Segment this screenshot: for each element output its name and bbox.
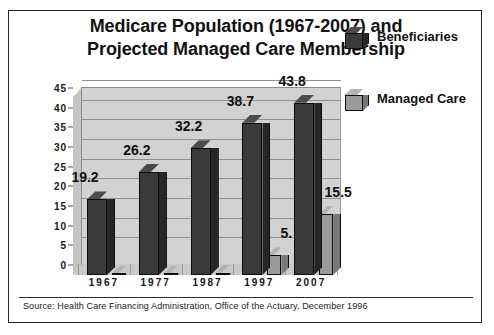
bar-front-face	[139, 172, 159, 275]
legend-swatch-front	[345, 33, 363, 49]
bar-managed-care-1967	[112, 274, 126, 275]
dark-cube-icon	[345, 33, 363, 49]
bar-front-face	[112, 273, 126, 275]
y-axis-tick-label: 20	[21, 181, 67, 192]
x-axis-tick-mark	[130, 264, 131, 275]
chart-slide-frame: Medicare Population (1967-2007) and Proj…	[8, 10, 482, 323]
legend-entry-beneficiaries: Beneficiaries	[345, 29, 465, 69]
bar-value-label-managed-care-2007: 15.5	[325, 184, 352, 200]
y-axis-tick-label: 30	[21, 142, 67, 153]
bar-beneficiaries-2007	[294, 103, 314, 275]
bar-managed-care-1977	[164, 273, 178, 275]
y-axis-tick-label: 15	[21, 201, 67, 212]
legend-label: Beneficiaries	[377, 29, 467, 44]
bar-value-label-beneficiaries-1997: 38.7	[227, 93, 254, 109]
x-axis-tick-mark	[233, 264, 234, 275]
light-cube-icon	[345, 95, 363, 111]
bar-side-face	[211, 148, 219, 275]
bar-value-label-beneficiaries-1967: 19.2	[71, 169, 98, 185]
x-axis-label-2007: 2007	[296, 277, 326, 288]
bar-front-face	[87, 199, 107, 275]
x-axis-label-1987: 1987	[192, 277, 222, 288]
source-note: Source: Health Care Financing Administra…	[23, 301, 368, 311]
bar-side-face	[314, 103, 322, 275]
bar-front-face	[164, 273, 178, 275]
x-axis-label-1967: 1967	[89, 277, 119, 288]
bar-value-label-beneficiaries-2007: 43.8	[279, 73, 306, 89]
bar-side-face	[333, 214, 341, 275]
x-axis: 19671977198719972007	[73, 277, 341, 293]
bar-front-face	[294, 103, 314, 275]
legend-swatch-side	[363, 33, 369, 49]
bar-front-face	[191, 148, 211, 275]
legend-swatch-side	[363, 95, 369, 111]
bar-beneficiaries-1997	[242, 123, 262, 275]
bar-value-label-beneficiaries-1987: 32.2	[175, 118, 202, 134]
y-axis-tick-label: 40	[21, 102, 67, 113]
x-axis-label-1977: 1977	[141, 277, 171, 288]
legend-label: Managed Care	[377, 91, 467, 106]
x-axis-tick-mark	[182, 264, 183, 275]
x-axis-tick-mark	[78, 264, 79, 275]
bar-side-face	[107, 199, 115, 275]
x-axis-label-1997: 1997	[244, 277, 274, 288]
y-axis-tick-label: 35	[21, 122, 67, 133]
y-axis-tick-label: 10	[21, 220, 67, 231]
bar-side-face	[262, 123, 270, 275]
legend-entry-managed-care: Managed Care	[345, 91, 465, 131]
bar-value-label-beneficiaries-1977: 26.2	[123, 142, 150, 158]
bar-beneficiaries-1977	[139, 172, 159, 275]
bar-beneficiaries-1967	[87, 199, 107, 275]
plot-wall: 43.815.538.75.32.226.219.2	[73, 87, 341, 275]
footer-divider	[19, 297, 473, 298]
bar-value-label-managed-care-1997: 5.	[281, 225, 293, 241]
y-axis-tick-label: 5	[21, 240, 67, 251]
legend-swatch-front	[345, 95, 363, 111]
y-axis-tick-label: 45	[21, 83, 67, 94]
y-axis-tick-label: 25	[21, 161, 67, 172]
bar-beneficiaries-1987	[191, 148, 211, 275]
bar-front-face	[216, 273, 230, 275]
y-axis: 051015202530354045	[21, 87, 73, 275]
y-axis-tick-label: 0	[21, 260, 67, 271]
bar-managed-care-1987	[216, 273, 230, 275]
bar-side-face	[159, 172, 167, 275]
bar-front-face	[242, 123, 262, 275]
